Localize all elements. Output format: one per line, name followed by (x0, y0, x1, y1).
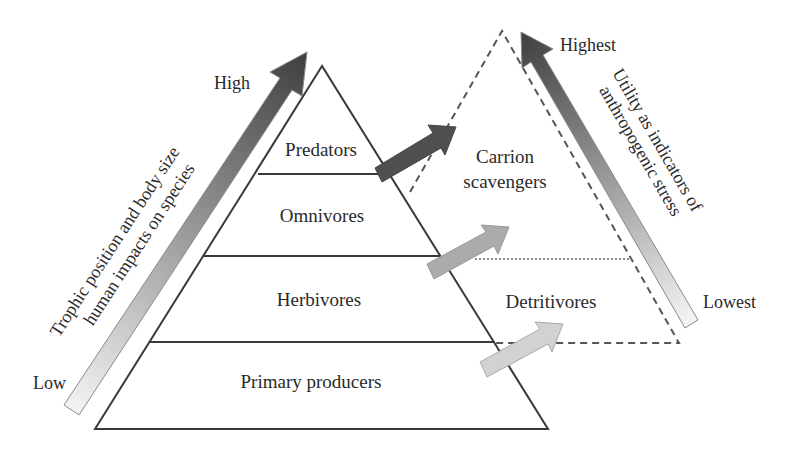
right-axis-high-label: Highest (560, 35, 616, 55)
arrow-omnivores-to-scavengers (427, 225, 509, 279)
level-label-primary-producers: Primary producers (241, 371, 382, 392)
left-axis-title-line1: Trophic position and body size (46, 143, 184, 340)
scavenger-label-carrion-line1: Carrion (476, 146, 535, 167)
left-axis-high-label: High (214, 73, 250, 93)
scavenger-label-carrion-line2: scavengers (463, 171, 546, 192)
left-axis-low-label: Low (33, 373, 66, 393)
right-axis-low-label: Lowest (703, 292, 756, 312)
arrow-predators-to-carrion (375, 125, 456, 182)
level-label-omnivores: Omnivores (280, 205, 364, 226)
level-label-predators: Predators (285, 139, 357, 160)
trophic-diagram: Predators Omnivores Herbivores Primary p… (0, 0, 794, 453)
arrow-producers-to-detritivores (480, 322, 563, 377)
scavenger-label-detritivores: Detritivores (506, 291, 597, 312)
left-gradient-arrow (64, 52, 307, 415)
level-label-herbivores: Herbivores (277, 289, 361, 310)
